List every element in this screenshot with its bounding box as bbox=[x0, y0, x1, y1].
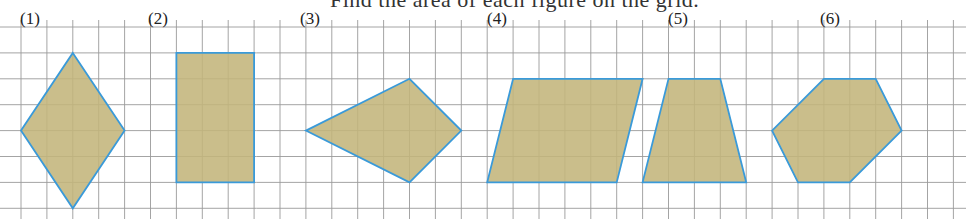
figure-hexagon bbox=[772, 79, 902, 183]
figure-parallelogram bbox=[487, 79, 642, 183]
figure-label-1: (1) bbox=[20, 10, 40, 27]
figure-label-6: (6) bbox=[820, 10, 840, 27]
figure-rhombus bbox=[21, 53, 125, 208]
figure-trapezoid bbox=[643, 79, 747, 183]
figure-rectangle bbox=[176, 53, 254, 183]
figure-label-2: (2) bbox=[148, 10, 168, 27]
figure-label-4: (4) bbox=[487, 10, 507, 27]
grid-diagram bbox=[0, 0, 974, 219]
figure-label-3: (3) bbox=[300, 10, 320, 27]
figure-label-5: (5) bbox=[668, 10, 688, 27]
figure-kite bbox=[306, 79, 461, 183]
